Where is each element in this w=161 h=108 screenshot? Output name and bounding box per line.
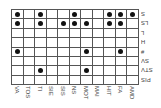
grid-cell	[58, 66, 70, 75]
dot-marker	[15, 21, 20, 26]
column-label: MOT	[83, 86, 89, 99]
grid-cell	[104, 38, 116, 47]
grid-cell	[92, 47, 104, 56]
column-label: AMD	[129, 86, 135, 99]
grid-cell	[46, 10, 58, 19]
row-label: STV	[141, 65, 157, 74]
grid-cell	[46, 28, 58, 37]
grid-cell	[104, 75, 116, 84]
grid-cell	[12, 38, 24, 47]
grid-cell	[92, 19, 104, 28]
grid-cell	[35, 10, 47, 19]
grid-cell	[23, 28, 35, 37]
grid-cell	[81, 28, 93, 37]
grid-cell	[35, 56, 47, 65]
grid-cell	[12, 66, 24, 75]
grid-cell	[46, 56, 58, 65]
grid-cell	[115, 10, 127, 19]
grid-cell	[58, 56, 70, 65]
column-label: TOS	[25, 86, 31, 98]
dot-marker	[84, 68, 89, 73]
grid-cell	[58, 75, 70, 84]
grid-cell	[12, 75, 24, 84]
grid-cell	[127, 19, 139, 28]
grid-cell	[81, 56, 93, 65]
grid-row	[12, 38, 139, 47]
row-label: S	[141, 9, 157, 18]
grid-cell	[69, 38, 81, 47]
grid-cell	[12, 28, 24, 37]
grid-cell	[23, 56, 35, 65]
dot-marker	[84, 21, 89, 26]
grid-cell	[127, 56, 139, 65]
column-label: MAI	[94, 86, 100, 97]
grid-cell	[69, 66, 81, 75]
grid-cell	[69, 47, 81, 56]
grid-cell	[92, 66, 104, 75]
dot-matrix-grid	[11, 9, 139, 85]
grid-cell	[104, 10, 116, 19]
dot-marker	[107, 12, 112, 17]
column-label: VA	[14, 86, 20, 94]
dot-marker	[72, 21, 77, 26]
grid-cell	[115, 47, 127, 56]
grid-cell	[81, 19, 93, 28]
grid-cell	[92, 10, 104, 19]
grid-cell	[35, 28, 47, 37]
grid-cell	[81, 10, 93, 19]
grid-cell	[23, 66, 35, 75]
grid-cell	[69, 19, 81, 28]
grid-cell	[127, 47, 139, 56]
grid-cell	[104, 66, 116, 75]
column-label: NS	[71, 86, 77, 94]
grid-cell	[69, 56, 81, 65]
dot-marker	[38, 68, 43, 73]
grid-cell	[92, 56, 104, 65]
grid-cell	[23, 47, 35, 56]
row-label: #	[141, 47, 157, 56]
grid-row	[12, 47, 139, 56]
grid-cell	[104, 47, 116, 56]
grid-cell	[81, 38, 93, 47]
grid-cell	[81, 47, 93, 56]
grid-cell	[46, 47, 58, 56]
dot-marker	[84, 49, 89, 54]
row-label: LS	[141, 18, 157, 27]
row-label: SV	[141, 56, 157, 65]
grid-cell	[23, 10, 35, 19]
grid-cell	[46, 19, 58, 28]
grid-cell	[46, 66, 58, 75]
grid-row	[12, 66, 139, 75]
grid-cell	[69, 10, 81, 19]
grid-cell	[46, 75, 58, 84]
grid-cell	[35, 47, 47, 56]
column-label: FA	[117, 86, 123, 93]
grid-cell	[12, 56, 24, 65]
grid-cell	[12, 47, 24, 56]
row-label: PIS	[141, 75, 157, 84]
grid-cell	[92, 75, 104, 84]
row-label: H	[141, 37, 157, 46]
grid-cell	[46, 38, 58, 47]
grid-cell	[58, 47, 70, 56]
grid-cell	[92, 38, 104, 47]
grid-cell	[58, 38, 70, 47]
column-label: SIS	[60, 86, 66, 96]
dot-marker	[61, 21, 66, 26]
grid-cell	[23, 38, 35, 47]
grid-cell	[115, 56, 127, 65]
grid-row	[12, 19, 139, 28]
dot-marker	[72, 12, 77, 17]
dot-marker	[130, 12, 135, 17]
row-label: L	[141, 28, 157, 37]
grid-cell	[104, 28, 116, 37]
grid-row	[12, 10, 139, 19]
dot-marker	[118, 49, 123, 54]
grid-cell	[58, 19, 70, 28]
grid-cell	[35, 66, 47, 75]
dot-marker	[15, 12, 20, 17]
grid-cell	[69, 28, 81, 37]
grid-cell	[127, 75, 139, 84]
grid-cell	[35, 19, 47, 28]
grid-cell	[104, 19, 116, 28]
